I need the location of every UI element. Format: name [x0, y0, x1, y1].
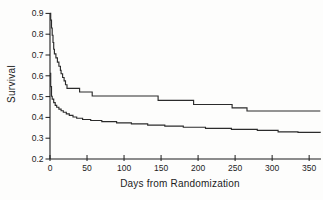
- x-tick-label: 300: [265, 163, 279, 173]
- y-axis: 0.90.80.70.60.50.40.30.2: [32, 8, 50, 164]
- x-tick-label: 50: [82, 163, 92, 173]
- y-tick-label: 0.5: [32, 92, 44, 102]
- x-tick-label: 250: [228, 163, 242, 173]
- y-axis-title: Survival: [6, 44, 18, 124]
- y-tick-label: 0.6: [32, 71, 44, 81]
- y-tick-label: 0.2: [32, 154, 44, 164]
- x-tick-label: 100: [117, 163, 131, 173]
- y-tick-label: 0.3: [32, 133, 44, 143]
- survival-figure: 0.90.80.70.60.50.40.30.2 050100150200250…: [0, 0, 323, 200]
- y-tick-label: 0.4: [32, 112, 44, 122]
- survival-curve-upper: [50, 13, 320, 111]
- survival-chart-svg: 0.90.80.70.60.50.40.30.2 050100150200250…: [0, 0, 323, 200]
- x-tick-label: 350: [302, 163, 316, 173]
- y-tick-label: 0.9: [32, 8, 44, 18]
- x-axis: 050100150200250300350: [48, 155, 321, 173]
- y-tick-label: 0.7: [32, 50, 44, 60]
- x-axis-title: Days from Randomization: [80, 178, 280, 189]
- x-tick-label: 150: [154, 163, 168, 173]
- survival-curves: [50, 13, 320, 132]
- x-tick-label: 200: [191, 163, 205, 173]
- y-tick-label: 0.8: [32, 29, 44, 39]
- survival-curve-lower: [50, 73, 320, 133]
- x-tick-label: 0: [48, 163, 53, 173]
